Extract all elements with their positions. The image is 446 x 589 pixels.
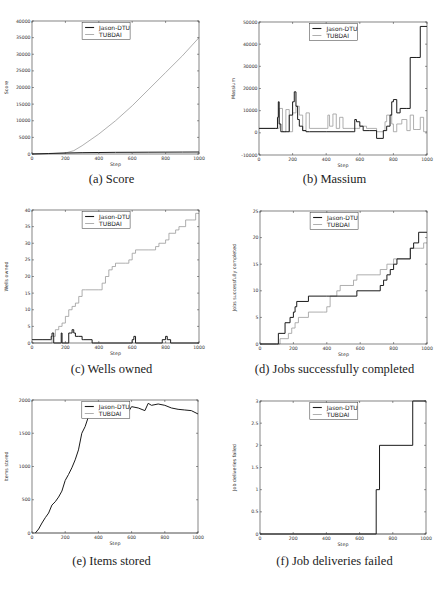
chart-a: 0200400600800100005000100001500020000250… — [0, 0, 223, 195]
y-tick-label: 2.5 — [251, 421, 258, 426]
y-tick-label: 25 — [25, 257, 31, 262]
x-tick-label: 600 — [128, 345, 137, 350]
y-axis-label: Massium — [231, 78, 236, 99]
y-tick-label: 15 — [25, 291, 31, 296]
y-tick-label: 30 — [25, 241, 31, 246]
y-tick-label: 25 — [253, 209, 259, 214]
x-axis-label: Step — [338, 163, 349, 168]
y-tick-label: 35000 — [16, 35, 31, 40]
legend-label: TUBDAI — [98, 31, 122, 38]
x-tick-label: 600 — [355, 157, 364, 162]
y-tick-label: 0 — [255, 130, 258, 135]
series-line-jason-dtu — [35, 403, 198, 533]
legend: Jason-DTUTUBDAI — [310, 403, 358, 420]
x-tick-label: 1000 — [192, 535, 204, 540]
x-tick-label: 200 — [61, 345, 70, 350]
x-tick-label: 200 — [289, 346, 298, 351]
y-axis-label: Wells owned — [4, 262, 9, 292]
y-tick-label: 15 — [253, 262, 259, 267]
chart-c: 020040060080010000510152025303540StepWel… — [0, 195, 223, 390]
x-tick-label: 0 — [258, 157, 261, 162]
y-tick-label: 1.5 — [251, 465, 258, 470]
legend: Jason-DTUTUBDAI — [309, 24, 357, 41]
x-tick-label: 400 — [322, 346, 331, 351]
y-tick-label: 2 — [256, 443, 259, 448]
y-tick-label: 5 — [28, 324, 31, 329]
legend-label: TUBDAI — [98, 410, 122, 417]
y-tick-label: 2000 — [19, 398, 31, 403]
y-tick-label: 1 — [256, 487, 259, 492]
legend: Jason-DTUTUBDAI — [82, 212, 130, 229]
legend: Jason-DTUTUBDAI — [82, 402, 130, 419]
y-tick-label: 20000 — [243, 86, 258, 91]
x-tick-label: 400 — [94, 345, 103, 350]
plot-frame — [32, 21, 199, 154]
legend-label: TUBDAI — [325, 32, 349, 39]
x-tick-label: 800 — [160, 535, 169, 540]
series-line-jason-dtu — [32, 330, 199, 343]
y-tick-label: 10000 — [243, 108, 258, 113]
x-axis-label: Step — [110, 351, 121, 356]
x-tick-label: 200 — [61, 156, 70, 161]
y-tick-label: 10000 — [16, 118, 31, 123]
y-tick-label: 10 — [253, 288, 259, 293]
x-tick-label: 200 — [289, 536, 298, 541]
series-line-tubdai — [259, 106, 427, 131]
x-tick-label: 1000 — [193, 345, 205, 350]
chart-panel-c: 020040060080010000510152025303540StepWel… — [0, 195, 223, 390]
x-tick-label: 0 — [31, 345, 34, 350]
series-line-jason-dtu — [260, 401, 426, 534]
y-tick-label: 0 — [28, 531, 31, 536]
x-tick-label: 200 — [288, 157, 297, 162]
y-tick-label: 50000 — [243, 20, 258, 25]
y-tick-label: 0 — [28, 341, 31, 346]
y-axis-label: Score — [4, 81, 9, 94]
x-axis-label: Step — [110, 162, 121, 167]
y-tick-label: 5000 — [19, 135, 31, 140]
y-tick-label: -10000 — [241, 153, 257, 158]
x-axis-label: Step — [110, 541, 121, 546]
x-tick-label: 400 — [94, 156, 103, 161]
y-tick-label: 40000 — [16, 19, 31, 24]
legend-label: TUBDAI — [326, 221, 350, 228]
series-line-tubdai — [32, 213, 199, 343]
caption-d: (d) Jobs successfully completed — [223, 362, 446, 377]
x-tick-label: 0 — [259, 536, 262, 541]
x-tick-label: 1000 — [193, 156, 205, 161]
x-tick-label: 600 — [127, 535, 136, 540]
x-tick-label: 200 — [61, 535, 70, 540]
y-axis-label: Items stored — [4, 451, 9, 481]
x-tick-label: 800 — [388, 536, 397, 541]
x-tick-label: 600 — [355, 536, 364, 541]
y-tick-label: 0 — [256, 532, 259, 537]
y-tick-label: 3 — [256, 399, 259, 404]
x-axis-label: Step — [338, 352, 349, 357]
y-tick-label: 1500 — [19, 431, 31, 436]
legend: Jason-DTUTUBDAI — [82, 23, 130, 40]
caption-f: (f) Job deliveries failed — [223, 554, 446, 569]
chart-panel-b: 02004006008001000-1000001000020000300004… — [223, 0, 446, 195]
y-tick-label: 10 — [25, 307, 31, 312]
legend: Jason-DTUTUBDAI — [310, 213, 358, 230]
x-tick-label: 600 — [356, 346, 365, 351]
x-tick-label: 0 — [31, 156, 34, 161]
x-tick-label: 0 — [259, 346, 262, 351]
y-tick-label: 0.5 — [251, 509, 258, 514]
y-axis-label: Jobs successfully completed — [232, 244, 237, 312]
x-tick-label: 800 — [389, 157, 398, 162]
series-line-jason-dtu — [260, 232, 427, 344]
x-tick-label: 600 — [128, 156, 137, 161]
y-tick-label: 20000 — [16, 85, 31, 90]
y-tick-label: 30000 — [243, 64, 258, 69]
y-tick-label: 0 — [28, 152, 31, 157]
plot-frame — [260, 401, 426, 534]
plot-frame — [32, 400, 198, 533]
chart-b: 02004006008001000-1000001000020000300004… — [223, 0, 446, 195]
caption-b: (b) Massium — [223, 172, 446, 187]
chart-panel-e: 020040060080010000500100015002000StepIte… — [0, 390, 223, 589]
x-tick-label: 400 — [322, 157, 331, 162]
chart-d: 020040060080010000510152025StepJobs succ… — [223, 195, 446, 390]
y-tick-label: 20 — [25, 274, 31, 279]
x-tick-label: 1000 — [421, 346, 433, 351]
x-tick-label: 800 — [389, 346, 398, 351]
